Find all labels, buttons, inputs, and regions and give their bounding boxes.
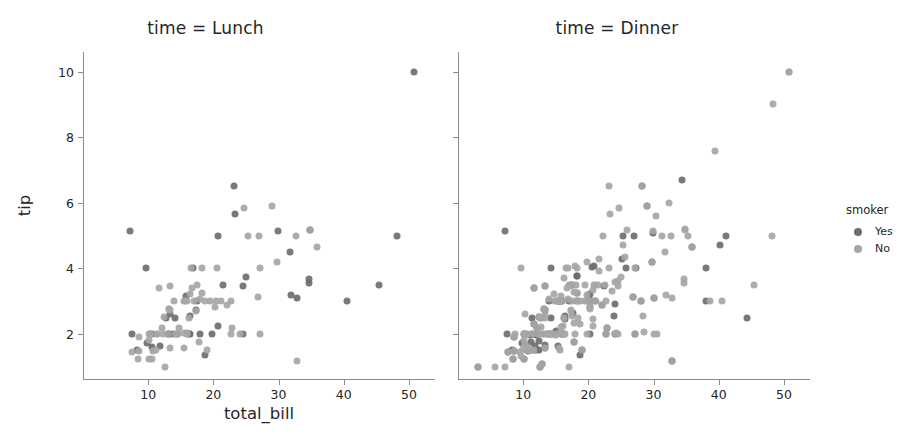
data-point	[148, 355, 155, 362]
data-point	[638, 183, 645, 190]
data-point	[547, 331, 554, 338]
legend-entries: YesNo	[846, 223, 914, 257]
data-point	[187, 290, 194, 297]
data-point	[653, 331, 660, 338]
data-point	[212, 303, 219, 310]
data-point	[703, 265, 710, 272]
data-point	[768, 232, 775, 239]
data-point	[393, 232, 400, 239]
x-tick-label: 50	[401, 387, 417, 402]
data-point	[167, 282, 174, 289]
data-point	[313, 243, 320, 250]
data-point	[520, 355, 527, 362]
y-tick-label: 4	[66, 261, 74, 276]
x-tick-label: 40	[336, 387, 352, 402]
data-point	[147, 331, 154, 338]
data-point	[231, 183, 238, 190]
data-point	[603, 325, 610, 332]
data-point	[204, 347, 211, 354]
data-point	[571, 339, 578, 346]
data-point	[135, 355, 142, 362]
x-tick-label: 10	[140, 387, 156, 402]
y-tick	[453, 334, 458, 335]
data-point	[255, 293, 262, 300]
data-point	[220, 281, 227, 288]
data-point	[307, 227, 314, 234]
data-point	[165, 306, 172, 313]
data-point	[135, 333, 142, 340]
data-point	[568, 281, 575, 288]
data-point	[616, 204, 623, 211]
data-point	[630, 294, 637, 301]
data-point	[152, 347, 159, 354]
data-point	[680, 275, 687, 282]
data-point	[576, 320, 583, 327]
facet-title-lunch: time = Lunch	[0, 18, 433, 38]
data-point	[542, 282, 549, 289]
data-point	[274, 258, 281, 265]
plot-area-dinner: 1020304050	[458, 52, 810, 380]
data-point	[609, 288, 616, 295]
data-point	[611, 300, 618, 307]
legend-item-label: Yes	[875, 225, 893, 238]
data-point	[527, 347, 534, 354]
y-tick	[78, 268, 83, 269]
y-tick	[453, 203, 458, 204]
data-point	[411, 68, 418, 75]
data-point	[719, 298, 726, 305]
data-point	[184, 331, 191, 338]
data-point	[668, 232, 675, 239]
data-point	[534, 331, 541, 338]
data-point	[644, 202, 651, 209]
data-point	[239, 282, 246, 289]
data-point	[590, 323, 597, 330]
data-point	[548, 265, 555, 272]
data-point	[601, 281, 608, 288]
data-point	[658, 232, 665, 239]
data-point	[688, 243, 695, 250]
data-point	[159, 331, 166, 338]
data-point	[595, 268, 602, 275]
data-point	[162, 363, 169, 370]
legend-marker-icon	[854, 228, 862, 236]
data-point	[503, 331, 510, 338]
data-point	[619, 242, 626, 249]
data-point	[559, 331, 566, 338]
data-point	[632, 331, 639, 338]
facet-lunch: time = Lunch 246810 1020304050 total_bil…	[0, 0, 455, 442]
legend-marker-icon	[854, 245, 862, 253]
data-point	[171, 298, 178, 305]
data-point	[228, 325, 235, 332]
data-point	[510, 355, 517, 362]
data-point	[711, 148, 718, 155]
data-point	[257, 265, 264, 272]
data-point	[573, 273, 580, 280]
data-point	[623, 227, 630, 234]
data-point	[537, 363, 544, 370]
x-tick	[279, 380, 280, 385]
data-point	[583, 331, 590, 338]
y-tick-label: 6	[66, 195, 74, 210]
data-point	[661, 249, 668, 256]
data-point	[786, 68, 793, 75]
data-point	[172, 331, 179, 338]
x-tick-label: 30	[271, 387, 287, 402]
legend-item-no[interactable]: No	[846, 240, 914, 257]
x-tick-label: 50	[776, 387, 792, 402]
seaborn-relplot-figure: time = Lunch 246810 1020304050 total_bil…	[0, 0, 914, 442]
data-point	[502, 363, 509, 370]
data-point	[649, 258, 656, 265]
legend-item-yes[interactable]: Yes	[846, 223, 914, 240]
data-point	[344, 298, 351, 305]
data-point	[574, 290, 581, 297]
y-tick	[453, 268, 458, 269]
data-point	[565, 363, 572, 370]
x-tick	[148, 380, 149, 385]
y-axis-spine-dinner	[458, 52, 459, 380]
data-point	[723, 232, 730, 239]
data-point	[540, 306, 547, 313]
data-point	[622, 265, 629, 272]
data-point	[666, 199, 673, 206]
x-tick-label: 10	[515, 387, 531, 402]
x-axis-spine-dinner	[458, 379, 810, 380]
